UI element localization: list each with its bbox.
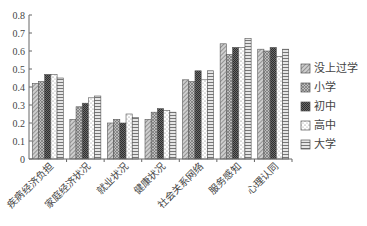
bar xyxy=(170,112,176,159)
legend-swatch xyxy=(301,64,310,73)
bar xyxy=(70,119,76,159)
legend-label: 小学 xyxy=(314,80,336,94)
bar xyxy=(164,110,170,159)
legend-swatch xyxy=(301,140,310,149)
bar xyxy=(45,74,51,159)
bar xyxy=(233,47,239,159)
legend-item: 高中 xyxy=(301,118,336,132)
bar xyxy=(207,71,213,159)
legend: 没上过学小学初中高中大学 xyxy=(301,61,358,151)
y-tick-label: 0.8 xyxy=(13,10,26,21)
legend-item: 小学 xyxy=(301,80,336,94)
bar xyxy=(245,38,251,159)
bar xyxy=(276,56,282,159)
x-category-label: 就业状况 xyxy=(94,160,131,197)
bar-group xyxy=(32,74,63,159)
bar xyxy=(126,114,132,159)
bar xyxy=(283,49,289,159)
bars xyxy=(32,38,288,159)
y-axis: 00.10.20.30.40.50.60.70.8 xyxy=(13,10,33,165)
legend-item: 初中 xyxy=(301,99,336,113)
bar xyxy=(107,123,113,159)
bar xyxy=(88,98,94,159)
legend-swatch xyxy=(301,121,310,130)
bar xyxy=(157,109,163,159)
y-tick-label: 0.5 xyxy=(13,64,26,75)
bar xyxy=(57,78,63,159)
bar xyxy=(82,103,88,159)
y-tick-label: 0.4 xyxy=(13,82,26,93)
legend-label: 大学 xyxy=(314,137,336,151)
bar-group xyxy=(107,114,138,159)
bar-group xyxy=(145,109,176,159)
x-category-label: 服务感知 xyxy=(206,160,243,197)
bar-group xyxy=(183,71,214,159)
legend-swatch xyxy=(301,102,310,111)
bar xyxy=(195,71,201,159)
bar xyxy=(114,119,120,159)
bar xyxy=(189,82,195,159)
y-tick-label: 0.1 xyxy=(13,136,26,147)
bar xyxy=(226,55,232,159)
legend-label: 高中 xyxy=(314,118,336,132)
y-tick-label: 0.6 xyxy=(13,46,26,57)
bar-group xyxy=(258,47,289,159)
bar xyxy=(76,107,82,159)
bar xyxy=(132,118,138,159)
y-tick-label: 0.3 xyxy=(13,100,26,111)
bar xyxy=(32,83,38,159)
x-axis: 疾病经济负担家庭经济状况就业状况健康状况社会关系网络服务感知心理认同 xyxy=(4,159,292,211)
bar xyxy=(51,74,57,159)
bar-group xyxy=(220,38,251,159)
legend-label: 初中 xyxy=(314,99,336,113)
bar xyxy=(220,44,226,159)
legend-swatch xyxy=(301,83,310,92)
bar xyxy=(38,82,44,159)
bar xyxy=(120,123,126,159)
bar xyxy=(264,51,270,159)
y-tick-label: 0.2 xyxy=(13,118,26,129)
legend-item: 没上过学 xyxy=(301,61,358,75)
bar xyxy=(270,47,276,159)
bar xyxy=(258,49,264,159)
legend-label: 没上过学 xyxy=(314,61,358,75)
bar xyxy=(239,47,245,159)
bar xyxy=(95,96,101,159)
y-tick-label: 0 xyxy=(20,154,25,165)
legend-item: 大学 xyxy=(301,137,336,151)
x-category-label: 健康状况 xyxy=(131,160,168,197)
bar xyxy=(151,112,157,159)
bar xyxy=(145,119,151,159)
bar-group xyxy=(70,96,101,159)
x-category-label: 心理认同 xyxy=(244,160,281,197)
bar xyxy=(201,80,207,159)
y-tick-label: 0.7 xyxy=(13,28,26,39)
bar-chart: 00.10.20.30.40.50.60.70.8 疾病经济负担家庭经济状况就业… xyxy=(0,0,367,226)
bar xyxy=(183,80,189,159)
